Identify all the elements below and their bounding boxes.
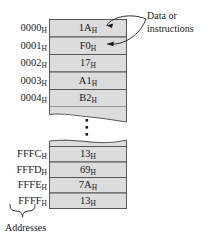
address-label-fffc: FFFCH (3, 148, 47, 159)
address-label-fffe: FFFEH (3, 179, 47, 190)
addresses-caption: Addresses (5, 222, 46, 233)
annotation-line-1: Data or (147, 10, 177, 23)
cell-value-0003: A1H (49, 75, 127, 86)
top-memory-block (50, 20, 127, 123)
vertical-ellipsis-icon (86, 119, 89, 136)
address-label-0000: 0000H (3, 22, 47, 33)
address-label-fffd: FFFDH (3, 164, 47, 175)
cell-value-fffe: 7AH (49, 179, 127, 190)
cell-value-0004: B2H (49, 92, 127, 103)
cell-value-fffc: 13H (49, 148, 127, 159)
annotation-line-2: instructions (147, 23, 194, 36)
address-label-0004: 0004H (3, 92, 47, 103)
cell-value-0000: 1AH (49, 22, 127, 33)
cell-value-0001: F0H (49, 40, 127, 51)
cell-value-fffd: 69H (49, 164, 127, 175)
cell-value-0002: 17H (49, 57, 127, 68)
address-label-0002: 0002H (3, 57, 47, 68)
cell-value-ffff: 13H (49, 195, 127, 206)
addresses-brace (10, 204, 35, 217)
address-label-0003: 0003H (3, 75, 47, 86)
address-label-ffff: FFFFH (3, 195, 47, 206)
address-label-0001: 0001H (3, 40, 47, 51)
